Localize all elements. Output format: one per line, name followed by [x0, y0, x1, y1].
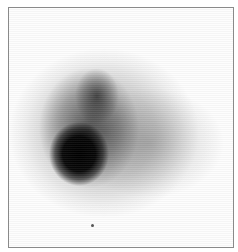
speck: [91, 224, 94, 227]
image-frame: Grayscale diffuse blob image with a dark…: [8, 7, 234, 248]
scanline-texture: [9, 8, 233, 247]
